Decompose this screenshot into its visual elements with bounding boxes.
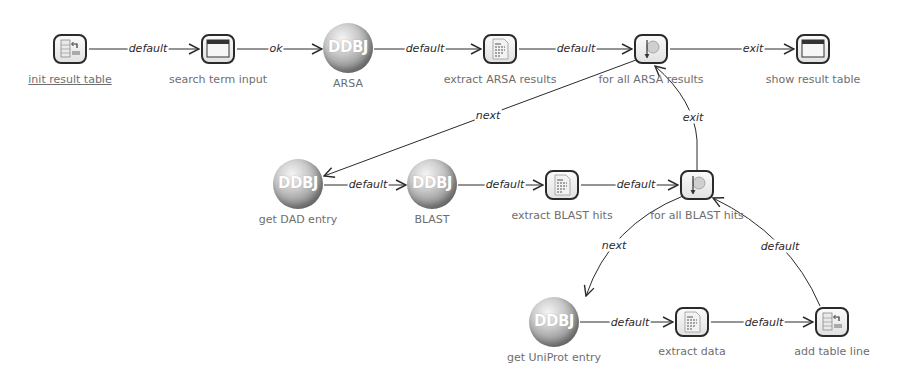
node-label: show result table xyxy=(766,73,860,86)
document-icon xyxy=(545,170,579,200)
loop-icon xyxy=(634,34,668,64)
node-label: add table line xyxy=(794,345,869,358)
edge-label: default xyxy=(760,240,801,253)
edge-label: default xyxy=(405,42,446,55)
node-label: search term input xyxy=(169,73,267,86)
node-label: extract data xyxy=(658,345,725,358)
node-label: BLAST xyxy=(414,213,449,226)
table-icon xyxy=(815,307,849,337)
node-label: extract ARSA results xyxy=(444,73,557,86)
node-label: get UniProt entry xyxy=(507,351,601,364)
edge-label: default xyxy=(348,178,389,191)
node-label: init result table xyxy=(28,73,111,86)
window-icon xyxy=(796,34,830,64)
edge-label: default xyxy=(610,316,651,329)
edge-label: default xyxy=(128,42,169,55)
edge-label: next xyxy=(475,109,502,122)
edge-label: default xyxy=(744,316,785,329)
ddbj-logo-icon: DDBJ xyxy=(323,23,373,73)
node-label: extract BLAST hits xyxy=(511,209,612,222)
loop-icon xyxy=(680,170,714,200)
node-label: for all ARSA results xyxy=(598,73,703,86)
ddbj-logo-icon: DDBJ xyxy=(273,159,323,209)
edge-label: default xyxy=(485,178,526,191)
edge-label: default xyxy=(556,42,597,55)
edge-label: next xyxy=(601,239,628,252)
node-label: for all BLAST hits xyxy=(650,209,744,222)
node-label: get DAD entry xyxy=(259,213,337,226)
table-icon xyxy=(53,34,87,64)
node-label: ARSA xyxy=(333,77,363,90)
window-icon xyxy=(201,34,235,64)
edge-label: exit xyxy=(742,42,765,55)
ddbj-logo-icon: DDBJ xyxy=(407,159,457,209)
edge-label: default xyxy=(616,178,657,191)
document-icon xyxy=(675,307,709,337)
ddbj-logo-icon: DDBJ xyxy=(529,297,579,347)
edge-label: exit xyxy=(682,111,705,124)
edge-label: ok xyxy=(268,42,283,55)
document-icon xyxy=(483,34,517,64)
